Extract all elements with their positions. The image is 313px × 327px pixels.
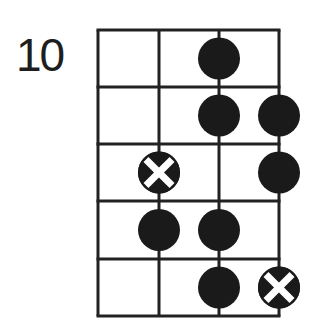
dot-icon: [258, 152, 300, 194]
dot-icon: [198, 38, 240, 80]
dot-icon: [198, 267, 240, 309]
dot-icon: [258, 95, 300, 137]
note-dot: [198, 38, 240, 80]
note-dot: [198, 209, 240, 251]
dot-icon: [138, 209, 180, 251]
note-dot: [258, 95, 300, 137]
root-note-marker: [138, 152, 180, 194]
grid-lines: [97, 30, 281, 316]
note-dot: [258, 152, 300, 194]
note-dot: [198, 95, 240, 137]
dot-icon: [198, 95, 240, 137]
note-dot: [138, 209, 180, 251]
note-dot: [198, 267, 240, 309]
dot-icon: [198, 209, 240, 251]
root-note-marker: [258, 267, 300, 309]
fretboard-grid: [0, 0, 313, 327]
